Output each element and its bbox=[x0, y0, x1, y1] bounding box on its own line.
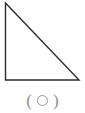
circle-outline-glyph bbox=[36, 94, 49, 107]
triangle-outline bbox=[6, 3, 80, 80]
right-triangle-shape bbox=[0, 0, 85, 88]
circle-stroke bbox=[38, 96, 48, 106]
right-parenthesis: ) bbox=[53, 92, 59, 109]
right-triangle-figure: ( ) bbox=[0, 0, 85, 113]
circle-outline-icon bbox=[36, 94, 49, 107]
answer-blank: ( ) bbox=[26, 92, 58, 109]
left-parenthesis: ( bbox=[26, 92, 32, 109]
shape-area bbox=[0, 0, 85, 88]
caption-area: ( ) bbox=[0, 88, 85, 113]
